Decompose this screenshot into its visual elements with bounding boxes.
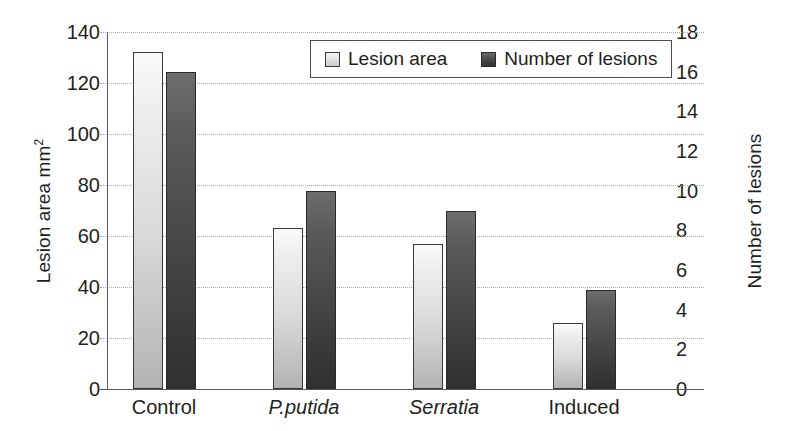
legend-label: Number of lesions [504,48,657,70]
y-axis-left-tick-label: 140 [44,22,100,42]
y-axis-right-tick-label: 2 [676,339,732,359]
y-axis-left-tick-label: 100 [44,124,100,144]
y-axis-left-tick-label: 20 [44,328,100,348]
bar-lesion-area [273,228,303,389]
bar-number-of-lesions [166,72,196,389]
y-axis-left-tick-label: 40 [44,277,100,297]
y-axis-right-title: Number of lesions [744,81,766,341]
bar-lesion-area [413,244,443,389]
y-axis-right-tick-label: 8 [676,220,732,240]
bar-number-of-lesions [586,290,616,389]
y-axis-left-ticks: 140120100806040200 [44,0,100,431]
bar-series-group [108,32,668,389]
legend-label: Lesion area [348,48,447,70]
bar-lesion-area [553,323,583,389]
plot-area [108,32,668,389]
legend-swatch-light-icon [325,52,340,67]
y-axis-right-tick-label: 6 [676,260,732,280]
bar-lesion-area [133,52,163,389]
y-axis-right-ticks: 181614121086420 [676,0,732,431]
legend-swatch-dark-icon [481,52,496,67]
x-axis-category-label: Induced [494,396,674,419]
y-axis-right-tick-label: 16 [676,62,732,82]
y-axis-right-tick-label: 14 [676,101,732,121]
y-axis-left-tick-label: 60 [44,226,100,246]
bar-number-of-lesions [306,191,336,389]
y-axis-left-tick-label: 80 [44,175,100,195]
y-axis-left-tick-label: 120 [44,73,100,93]
y-axis-right-tick-label: 10 [676,181,732,201]
y-axis-right-tick-label: 4 [676,300,732,320]
chart-container: Lesion area mm2 Number of lesions 140120… [0,0,785,431]
bar-number-of-lesions [446,211,476,390]
legend-item[interactable]: Number of lesions [481,48,657,70]
y-axis-right-tick-label: 12 [676,141,732,161]
legend-item[interactable]: Lesion area [325,48,447,70]
x-axis-line [100,389,704,390]
chart-legend: Lesion areaNumber of lesions [310,40,672,78]
